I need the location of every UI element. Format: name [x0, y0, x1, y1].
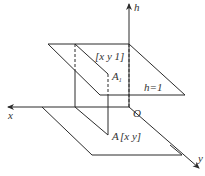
A1-coords-label: [x y 1]: [95, 50, 124, 62]
upper-plane-label: h=1: [144, 81, 162, 93]
upper-plane-left-edge: [48, 44, 100, 95]
A-label: A: [111, 130, 119, 142]
projection-diagram: h x y O h=1 [x y 1] A1 A [x y]: [0, 0, 205, 176]
x-axis-label: x: [7, 109, 13, 121]
A-coords-label: [x y]: [120, 130, 141, 142]
lower-diagonal-to-A: [75, 107, 108, 135]
A1-label: A1: [111, 70, 122, 83]
y-axis-label: y: [197, 152, 203, 164]
origin-label: O: [133, 107, 141, 119]
axes: [8, 4, 199, 168]
h-axis-label: h: [134, 1, 140, 13]
diagram-canvas: h x y O h=1 [x y 1] A1 A [x y]: [0, 0, 205, 176]
